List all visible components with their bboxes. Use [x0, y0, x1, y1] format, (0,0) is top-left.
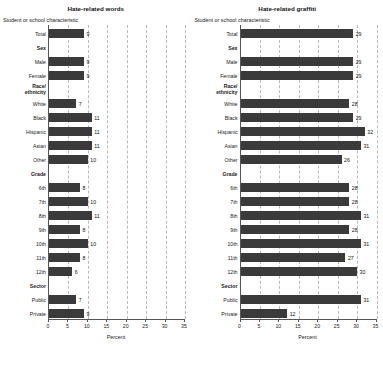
bar-value-label: 28 — [352, 199, 358, 205]
bar — [49, 99, 76, 108]
group-header-label: Sex — [3, 45, 46, 51]
x-axis-tick-label: 0 — [238, 323, 241, 329]
category-label: 8th — [3, 213, 46, 219]
category-label: Hispanic — [3, 129, 46, 135]
x-axis-tick — [106, 319, 107, 322]
group-header-label: Race/ethnicity — [3, 84, 46, 95]
x-axis-tick — [376, 319, 377, 322]
bar — [241, 141, 361, 150]
group-header-line: ethnicity — [195, 90, 238, 96]
bar — [241, 71, 354, 80]
bar-value-label: 27 — [348, 255, 354, 261]
category-label: 10th — [3, 241, 46, 247]
category-label: 12th — [3, 269, 46, 275]
category-label: Male — [3, 59, 46, 65]
bar — [241, 225, 350, 234]
bar-value-label: 11 — [94, 115, 99, 121]
bar-value-label: 10 — [90, 199, 96, 205]
bar-value-label: 9 — [86, 311, 89, 317]
bar — [241, 29, 354, 38]
bar — [49, 57, 84, 66]
bar-value-label: 31 — [363, 241, 369, 247]
bar — [241, 253, 346, 262]
bar-value-label: 7 — [79, 297, 82, 303]
bar-value-label: 29 — [356, 31, 362, 37]
category-label: 9th — [3, 227, 46, 233]
category-label: 10th — [195, 241, 238, 247]
bar — [241, 211, 361, 220]
x-axis-tick-label: 10 — [275, 323, 281, 329]
category-label: 6th — [195, 185, 238, 191]
panel-title: Hate-related graffiti — [192, 0, 383, 12]
gridline — [127, 25, 128, 319]
category-label: Other — [195, 157, 238, 163]
category-label: Black — [3, 115, 46, 121]
category-label: Private — [195, 311, 238, 317]
bar — [49, 71, 84, 80]
x-axis-tick-label: 35 — [373, 323, 379, 329]
category-label: 9th — [195, 227, 238, 233]
x-axis-tick-label: 30 — [353, 323, 359, 329]
category-label: Asian — [3, 143, 46, 149]
category-label: Private — [3, 311, 46, 317]
x-axis-tick-label: 20 — [314, 323, 320, 329]
bar — [49, 295, 76, 304]
bar-value-label: 11 — [94, 129, 99, 135]
category-label: Asian — [195, 143, 238, 149]
plot-area: 999711111110810118108679 — [48, 25, 184, 319]
group-header-label: Sector — [3, 283, 46, 289]
x-axis-tick-label: 0 — [47, 323, 50, 329]
bar-value-label: 28 — [352, 185, 358, 191]
bar — [241, 113, 354, 122]
group-header-line: ethnicity — [3, 90, 46, 96]
category-label: 12th — [195, 269, 238, 275]
bar — [49, 211, 92, 220]
bar-value-label: 8 — [83, 185, 86, 191]
x-axis-tick-label: 30 — [162, 323, 168, 329]
x-axis-label: Percent — [240, 334, 376, 340]
bar-value-label: 30 — [360, 269, 366, 275]
x-axis-tick — [298, 319, 299, 322]
bar — [241, 309, 288, 318]
bar — [241, 267, 358, 276]
category-label: Total — [3, 31, 46, 37]
x-axis-tick-label: 5 — [66, 323, 69, 329]
bar-value-label: 12 — [290, 311, 296, 317]
bar — [49, 127, 92, 136]
bar — [241, 155, 342, 164]
bar-value-label: 28 — [352, 227, 358, 233]
x-axis-tick — [356, 319, 357, 322]
bar-value-label: 10 — [90, 241, 96, 247]
bar — [49, 141, 92, 150]
x-axis-tick — [48, 319, 49, 322]
bar-value-label: 29 — [356, 115, 362, 121]
bar-value-label: 11 — [94, 213, 99, 219]
bar — [49, 267, 72, 276]
panel-hate-related-graffiti: Hate-related graffiti Student or school … — [192, 0, 383, 380]
gridline — [146, 25, 147, 319]
bar-value-label: 9 — [86, 59, 89, 65]
x-axis-tick — [317, 319, 318, 322]
x-axis-tick-label: 25 — [334, 323, 340, 329]
bar — [241, 197, 350, 206]
category-label: 7th — [195, 199, 238, 205]
x-axis-label: Percent — [48, 334, 184, 340]
plot-area: 2929292829323126282831283127303112 — [240, 25, 376, 319]
bar — [49, 239, 88, 248]
bar-value-label: 28 — [352, 101, 358, 107]
bar — [49, 113, 92, 122]
gridline — [357, 25, 358, 319]
category-label: Public — [195, 297, 238, 303]
x-axis-tick — [184, 319, 185, 322]
x-axis-tick — [337, 319, 338, 322]
bar — [241, 99, 350, 108]
bar-value-label: 29 — [356, 73, 362, 79]
group-header-label: Grade — [3, 171, 46, 177]
category-label: 8th — [195, 213, 238, 219]
bar-value-label: 11 — [94, 143, 99, 149]
bar — [49, 309, 84, 318]
bar-value-label: 9 — [86, 31, 89, 37]
bar-value-label: 32 — [367, 129, 373, 135]
category-label: Other — [3, 157, 46, 163]
panel-title: Hate-related words — [0, 0, 192, 12]
